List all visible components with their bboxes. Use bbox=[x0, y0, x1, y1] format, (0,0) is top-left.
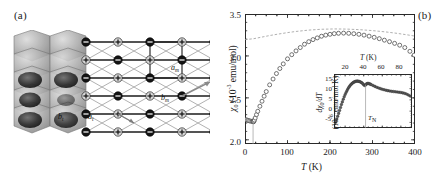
inset-xaxis-title: T (K) bbox=[360, 53, 376, 62]
inset-xtick-1: 40 bbox=[355, 63, 371, 71]
main-xtick-4: 400 bbox=[400, 147, 430, 157]
inset-TN-annotation: TN bbox=[368, 114, 376, 123]
vector-label-a-monoclinic: am bbox=[171, 63, 179, 73]
panel-a: (a) bbox=[0, 0, 215, 184]
polyhedra-slab bbox=[14, 30, 86, 133]
main-yaxis-title: χ0 (10-3 emu/mol) bbox=[226, 14, 239, 144]
main-xaxis-title: T (K) bbox=[301, 162, 322, 172]
panel-a-label: (a) bbox=[14, 9, 27, 21]
vector-label-b-monoclinic: bm bbox=[161, 93, 169, 103]
figure-root: (a) bbox=[0, 0, 446, 184]
lattice-sites bbox=[82, 38, 210, 136]
panel-b-label: (b) bbox=[418, 9, 431, 21]
main-xtick-0: 0 bbox=[230, 147, 260, 157]
main-xtick-2: 200 bbox=[315, 147, 345, 157]
vector-label-b-triangular: bt bbox=[58, 112, 64, 122]
main-xtick-3: 300 bbox=[357, 147, 387, 157]
panel-b: (b) 2.0 2.5 3.0 3.5 0 100 200 300 400 T … bbox=[215, 0, 446, 184]
vector-label-a-triangular: at bbox=[88, 112, 94, 122]
main-xtick-1: 100 bbox=[272, 147, 302, 157]
inset-yaxis-title: dχ0/dT (10-6 emu/mol K) bbox=[315, 64, 340, 142]
inset-xtick-2: 60 bbox=[373, 63, 389, 71]
inset-plot: 15 10 5 0 -5 20 40 60 80 T (K) dχ0/dT (1… bbox=[334, 74, 412, 128]
triangular-lattice bbox=[82, 38, 210, 136]
structure-svg bbox=[10, 30, 210, 140]
inset-xtick-3: 80 bbox=[391, 63, 407, 71]
crystal-structure-diagram bbox=[10, 30, 210, 140]
